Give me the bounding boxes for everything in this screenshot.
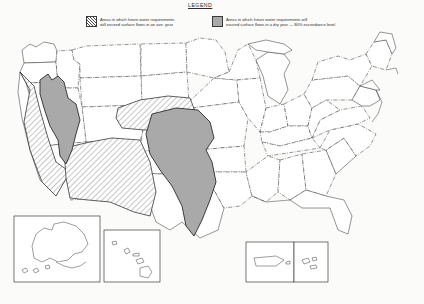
alaska-inset [14, 216, 100, 282]
state-pennsylvania [304, 76, 360, 108]
diagonal-hatch-swatch [86, 16, 97, 27]
legend-title: LEGEND [188, 2, 212, 8]
legend-entry-average-year: Areas in which future water requirements… [86, 16, 174, 27]
virgin-island-st-john [312, 257, 317, 261]
hawaii-island-kauai [112, 241, 117, 245]
virgin-island-st-croix [310, 265, 317, 269]
hawaii-inset [104, 230, 160, 282]
caribbean-insets [246, 242, 328, 282]
state-minnesota [186, 38, 229, 78]
legend-entry-dry-year: Areas in which future water requirements… [212, 16, 335, 27]
aleutian-islands-3 [45, 265, 50, 269]
cape-cod-coastline [386, 68, 398, 74]
state-montana [72, 44, 141, 78]
southwest-hatch-region [64, 138, 156, 216]
state-north-dakota [141, 43, 187, 76]
virgin-islands-inset-frame [294, 242, 328, 282]
hawaii-inset-frame [104, 230, 160, 282]
state-florida [290, 190, 352, 234]
solid-gray-swatch [212, 16, 223, 27]
legend-label-average-year: Areas in which future water requirements… [100, 16, 174, 27]
state-michigan-upper-peninsula [248, 40, 292, 54]
legend-label-dry-year: Areas in which future water requirements… [226, 16, 335, 27]
united-states-water-requirements-map [0, 30, 424, 304]
map-page: LEGEND Areas in which future water requi… [0, 0, 424, 304]
state-washington [22, 42, 57, 63]
